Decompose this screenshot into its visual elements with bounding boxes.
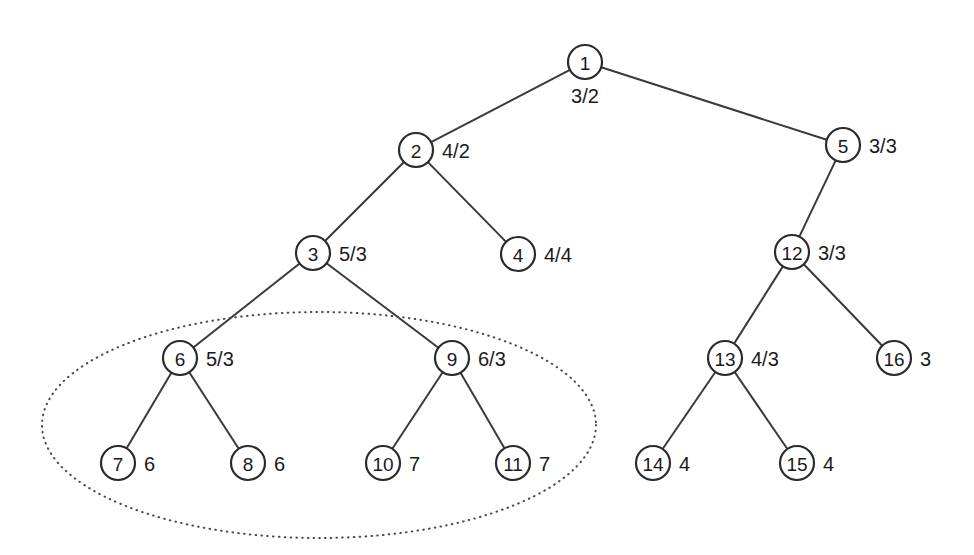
node-id-label: 14 <box>642 454 664 475</box>
tree-node[interactable]: 163 <box>877 341 931 375</box>
node-id-label: 6 <box>175 349 186 370</box>
node-value-label: 4 <box>679 453 690 475</box>
node-id-label: 11 <box>503 454 523 475</box>
selection-ellipse <box>42 312 596 538</box>
node-id-label: 16 <box>883 349 904 370</box>
node-value-label: 3/3 <box>869 135 897 157</box>
tree-node[interactable]: 86 <box>231 446 285 480</box>
node-id-label: 15 <box>786 454 807 475</box>
tree-edge <box>799 160 835 236</box>
tree-edge <box>461 373 505 449</box>
node-value-label: 3/2 <box>571 85 599 107</box>
nodes-layer: 13/224/253/335/344/4123/365/396/3134/316… <box>101 45 931 480</box>
tree-edge <box>327 263 439 348</box>
selection-layer <box>42 312 596 538</box>
tree-diagram: 13/224/253/335/344/4123/365/396/3134/316… <box>0 0 974 555</box>
node-value-label: 4/4 <box>544 244 572 266</box>
node-id-label: 3 <box>308 244 319 265</box>
tree-node[interactable]: 44/4 <box>501 237 572 271</box>
node-id-label: 9 <box>447 349 458 370</box>
tree-edge <box>431 70 570 142</box>
node-id-label: 1 <box>580 53 591 74</box>
node-value-label: 4/2 <box>442 140 470 162</box>
tree-node[interactable]: 76 <box>101 446 155 480</box>
tree-edge <box>735 372 788 449</box>
node-value-label: 3 <box>920 348 931 370</box>
tree-edge <box>193 264 299 348</box>
tree-node[interactable]: 107 <box>366 446 420 480</box>
node-id-label: 2 <box>411 141 422 162</box>
tree-edge <box>734 266 783 343</box>
node-value-label: 6 <box>274 453 285 475</box>
node-id-label: 4 <box>513 245 524 266</box>
node-value-label: 7 <box>409 453 420 475</box>
node-value-label: 3/3 <box>818 242 846 264</box>
tree-edge <box>804 264 882 346</box>
tree-node[interactable]: 35/3 <box>296 236 367 270</box>
node-id-label: 5 <box>838 136 849 157</box>
tree-node[interactable]: 123/3 <box>775 235 846 269</box>
tree-node[interactable]: 13/2 <box>568 45 602 107</box>
node-value-label: 4 <box>823 453 834 475</box>
node-id-label: 7 <box>113 454 124 475</box>
tree-node[interactable]: 65/3 <box>163 341 234 375</box>
tree-node[interactable]: 24/2 <box>399 133 470 167</box>
node-value-label: 6/3 <box>478 348 506 370</box>
tree-node[interactable]: 117 <box>496 446 550 480</box>
node-id-label: 12 <box>781 243 802 264</box>
tree-edge <box>392 372 442 449</box>
tree-node[interactable]: 53/3 <box>826 128 897 162</box>
tree-edge <box>428 162 506 242</box>
tree-node[interactable]: 154 <box>780 446 834 480</box>
node-value-label: 4/3 <box>751 348 779 370</box>
node-value-label: 5/3 <box>206 348 234 370</box>
node-id-label: 8 <box>243 454 254 475</box>
node-value-label: 7 <box>539 453 550 475</box>
node-value-label: 6 <box>144 453 155 475</box>
tree-edge <box>325 162 404 241</box>
node-id-label: 13 <box>714 349 735 370</box>
tree-edge <box>127 373 172 449</box>
tree-edge <box>189 372 239 448</box>
tree-canvas: 13/224/253/335/344/4123/365/396/3134/316… <box>0 0 974 555</box>
tree-edge <box>601 67 827 140</box>
tree-node[interactable]: 96/3 <box>435 341 506 375</box>
node-id-label: 10 <box>372 454 393 475</box>
node-value-label: 5/3 <box>339 243 367 265</box>
tree-node[interactable]: 134/3 <box>708 341 779 375</box>
tree-node[interactable]: 144 <box>636 446 690 480</box>
tree-edge <box>663 372 716 449</box>
